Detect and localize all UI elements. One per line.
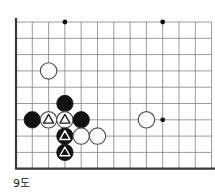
black-stone-disc — [73, 112, 89, 128]
star-point — [160, 117, 165, 122]
stones[interactable] — [24, 63, 155, 161]
black-stone-disc — [57, 95, 73, 111]
go-diagram-figure: 9도 — [0, 0, 215, 195]
white-stone-c8r6[interactable] — [138, 112, 154, 128]
star-point — [63, 20, 68, 25]
white-stone-triangle-c2r6[interactable] — [40, 112, 56, 128]
black-stone-triangle-c3r7[interactable] — [57, 128, 73, 144]
white-stone-triangle-c3r6[interactable] — [57, 112, 73, 128]
go-board[interactable] — [0, 0, 215, 175]
black-stone-c1r6[interactable] — [24, 112, 40, 128]
board-edges — [15, 18, 215, 169]
white-stone-c4r7[interactable] — [73, 128, 89, 144]
black-stone-c3r5[interactable] — [57, 95, 73, 111]
black-stone-disc — [24, 112, 40, 128]
grid-lines — [16, 22, 212, 169]
white-stone-c2r3[interactable] — [40, 63, 56, 79]
black-stone-c4r6[interactable] — [73, 112, 89, 128]
star-point — [160, 20, 165, 25]
figure-caption: 9도 — [13, 177, 30, 190]
white-stone-disc — [40, 63, 56, 79]
white-stone-disc — [89, 128, 105, 144]
white-stone-c5r7[interactable] — [89, 128, 105, 144]
white-stone-disc — [138, 112, 154, 128]
white-stone-disc — [73, 128, 89, 144]
go-board-canvas — [0, 0, 215, 175]
black-stone-triangle-c3r8[interactable] — [57, 144, 73, 160]
